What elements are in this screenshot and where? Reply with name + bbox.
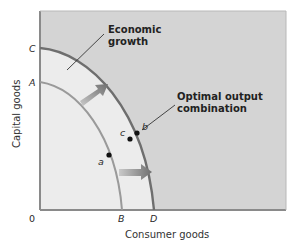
label-point-c: c xyxy=(120,128,125,138)
x-axis-title: Consumer goods xyxy=(125,230,209,240)
label-d-intercept: D xyxy=(150,214,157,224)
y-axis-title: Capital goods xyxy=(12,80,22,148)
label-b-intercept: B xyxy=(118,214,125,224)
point-a xyxy=(106,152,111,157)
optimal-output-annotation: Optimal output combination xyxy=(177,91,263,115)
optimal-output-line2: combination xyxy=(177,103,263,115)
label-c-intercept: C xyxy=(29,44,36,54)
label-point-a: a xyxy=(98,157,104,167)
point-b xyxy=(134,130,139,135)
origin-label: 0 xyxy=(29,214,35,224)
label-a-intercept: A xyxy=(29,78,36,88)
economic-growth-line2: growth xyxy=(108,36,161,48)
label-point-b: b xyxy=(142,122,148,132)
point-c xyxy=(127,136,132,141)
economic-growth-line1: Economic xyxy=(108,24,161,36)
optimal-output-line1: Optimal output xyxy=(177,91,263,103)
economic-growth-annotation: Economic growth xyxy=(108,24,161,48)
